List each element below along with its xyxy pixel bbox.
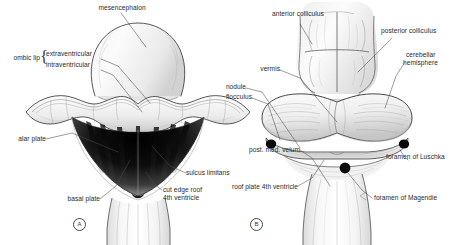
label-extraventricular: extraventricular <box>46 50 92 58</box>
label-cut-edge-roof-line1: cut edge roof <box>163 186 202 194</box>
label-vermis: vermis <box>232 65 280 73</box>
label-sulcus-limitans: sulcus limitans <box>186 169 230 177</box>
label-mesencephalon: mesencephalon <box>76 4 168 12</box>
label-post-med-velum: post. med. velum <box>238 146 300 154</box>
figure-canvas: mesencephalon ombic lip { extraventricul… <box>0 0 456 245</box>
label-cerebellar-hemisphere-line2: hemisphere <box>403 59 438 67</box>
panel-a-art <box>26 13 250 245</box>
label-foramen-of-magendie: foramen of Magendie <box>374 194 437 202</box>
label-nodule: nodule <box>218 83 246 91</box>
label-roof-plate-4th-ventricle: roof plate 4th ventricle <box>210 183 298 191</box>
label-cut-edge-roof-line2: 4th ventricle <box>163 194 199 202</box>
panel-b-art <box>246 2 412 245</box>
panel-tag-b: B <box>250 218 263 231</box>
label-basal-plate: basal plate <box>46 195 100 203</box>
label-rhombic-lip: ombic lip <box>0 54 40 62</box>
foramen-of-luschka-right-marker <box>399 139 409 148</box>
label-flocculus: flocculus <box>212 93 252 101</box>
label-cerebellar-hemisphere-line1: cerebellar <box>406 51 435 59</box>
label-intraventricular: intraventricular <box>46 61 90 69</box>
label-foramen-of-luschka: foramen of Luschka <box>386 153 445 161</box>
anatomical-illustration <box>0 0 456 245</box>
foramen-of-magendie-marker <box>340 163 351 174</box>
panel-tag-a: A <box>73 218 86 231</box>
label-posterior-colliculus: posterior colliculus <box>381 27 436 35</box>
label-anterior-colliculus: anterior colliculus <box>272 10 324 18</box>
label-alar-plate: alar plate <box>0 135 46 143</box>
